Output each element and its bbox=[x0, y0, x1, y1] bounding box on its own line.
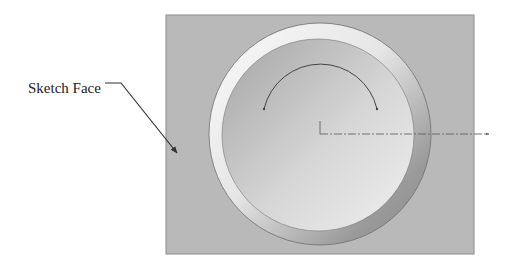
recess-face bbox=[222, 39, 414, 231]
diagram-canvas bbox=[0, 0, 512, 269]
arc-endpoint-right bbox=[376, 108, 378, 110]
arc-endpoint-left bbox=[263, 108, 265, 110]
